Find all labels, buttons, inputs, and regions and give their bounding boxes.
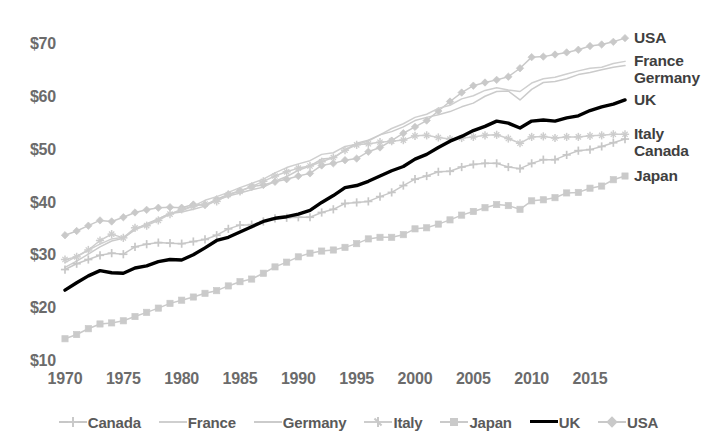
series-end-label: Italy (634, 125, 664, 143)
legend-label: Italy (393, 414, 422, 431)
y-tick-label: $10 (0, 352, 56, 370)
x-tick-label: 1985 (210, 370, 270, 388)
legend-label: Canada (88, 414, 141, 431)
series-uk (65, 100, 625, 290)
legend-swatch-germany-icon (254, 415, 282, 429)
x-tick-label: 2010 (502, 370, 562, 388)
legend-item-italy[interactable]: Italy (364, 414, 422, 431)
y-tick-label: $30 (0, 246, 56, 264)
legend-label: Japan (469, 414, 511, 431)
series-end-label: Canada (634, 142, 689, 160)
legend-item-uk[interactable]: UK (530, 414, 580, 431)
series-end-label: USA (634, 29, 666, 47)
legend-swatch-canada-icon (59, 415, 87, 429)
legend-item-france[interactable]: France (159, 414, 236, 431)
legend-label: France (188, 414, 236, 431)
y-tick-label: $60 (0, 88, 56, 106)
series-end-label: Japan (634, 167, 678, 185)
line-chart: $70$60$50$40$30$20$10 197019751980198519… (0, 0, 717, 444)
x-tick-label: 1970 (35, 370, 95, 388)
legend-item-germany[interactable]: Germany (254, 414, 347, 431)
legend-label: UK (559, 414, 580, 431)
series-end-label: France (634, 52, 684, 70)
x-tick-label: 2015 (560, 370, 620, 388)
x-tick-label: 1995 (327, 370, 387, 388)
legend-item-japan[interactable]: Japan (440, 414, 511, 431)
legend-swatch-uk-icon (530, 415, 558, 429)
y-tick-label: $70 (0, 35, 56, 53)
y-tick-label: $40 (0, 194, 56, 212)
legend-item-canada[interactable]: Canada (59, 414, 141, 431)
x-tick-label: 1980 (152, 370, 212, 388)
x-tick-label: 1990 (268, 370, 328, 388)
series-germany (65, 66, 625, 268)
legend-swatch-japan-icon (440, 415, 468, 429)
x-tick-label: 2005 (443, 370, 503, 388)
series-end-label: UK (634, 91, 656, 109)
legend-label: USA (627, 414, 658, 431)
y-tick-label: $20 (0, 299, 56, 317)
y-tick-label: $50 (0, 141, 56, 159)
legend-swatch-italy-icon (364, 415, 392, 429)
series-canada (61, 135, 629, 274)
legend-swatch-france-icon (159, 415, 187, 429)
legend-label: Germany (283, 414, 347, 431)
chart-legend: CanadaFranceGermanyItalyJapanUKUSA (0, 408, 717, 436)
series-japan (62, 173, 628, 342)
x-tick-label: 1975 (93, 370, 153, 388)
x-tick-label: 2000 (385, 370, 445, 388)
legend-swatch-usa-icon (598, 415, 626, 429)
series-end-label: Germany (634, 69, 700, 87)
legend-item-usa[interactable]: USA (598, 414, 658, 431)
